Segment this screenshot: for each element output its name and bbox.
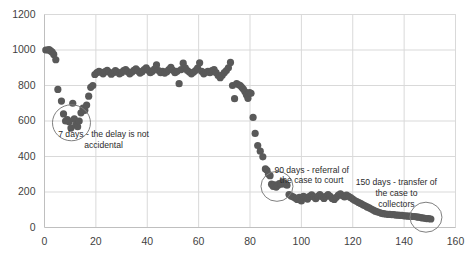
- data-point: [427, 215, 434, 222]
- x-axis-tick-label: 120: [333, 236, 373, 247]
- x-axis-tick-label: 20: [76, 236, 116, 247]
- data-point: [176, 80, 183, 87]
- y-axis-tick-label: 0: [0, 222, 36, 233]
- data-point: [76, 117, 83, 124]
- annotation-150-days: 150 days - transfer of the case to colle…: [340, 177, 452, 209]
- data-point: [247, 90, 254, 97]
- x-axis-tick-label: 80: [230, 236, 270, 247]
- data-point: [259, 153, 266, 160]
- y-axis-tick-label: 1000: [0, 44, 36, 55]
- y-axis-tick-label: 600: [0, 115, 36, 126]
- data-point: [227, 59, 234, 66]
- data-point: [196, 59, 203, 66]
- y-axis-tick-label: 200: [0, 186, 36, 197]
- x-axis-tick-label: 100: [281, 236, 321, 247]
- y-axis-tick-label: 400: [0, 151, 36, 162]
- y-axis-tick-label: 800: [0, 80, 36, 91]
- y-axis-tick-label: 1200: [0, 9, 36, 20]
- data-point: [69, 100, 76, 107]
- data-point: [52, 56, 59, 63]
- data-point: [83, 101, 90, 108]
- data-point: [58, 98, 65, 105]
- data-point: [89, 82, 96, 89]
- data-point: [252, 130, 259, 137]
- plot-area: [0, 0, 475, 256]
- x-axis-tick-label: 140: [384, 236, 424, 247]
- x-axis-tick-label: 40: [127, 236, 167, 247]
- data-point: [231, 95, 238, 102]
- annotation-7-days: 7 days - the delay is not accidental: [48, 129, 160, 150]
- scatter-chart: 120010008006004002000 020406080100120140…: [0, 0, 475, 256]
- x-axis-tick-label: 0: [25, 236, 65, 247]
- data-point: [249, 114, 256, 121]
- data-point: [85, 93, 92, 100]
- x-axis-tick-label: 60: [179, 236, 219, 247]
- x-axis-tick-label: 160: [436, 236, 475, 247]
- data-point: [54, 86, 61, 93]
